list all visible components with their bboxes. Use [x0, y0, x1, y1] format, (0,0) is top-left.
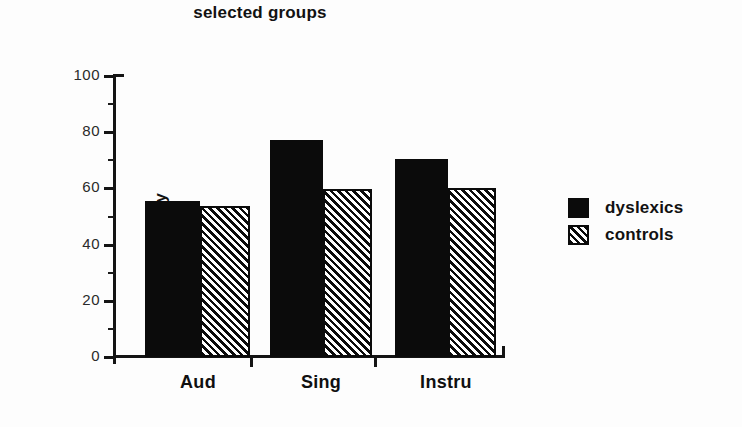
bar-aud-controls — [200, 206, 250, 357]
x-category-label-aud: Aud — [128, 372, 268, 393]
y-tick-label-40: 40 — [40, 235, 100, 252]
y-tick-major-40 — [104, 244, 115, 247]
y-tick-major-60 — [104, 187, 115, 190]
y-tick-minor-30 — [108, 272, 115, 274]
y-tick-label-0: 0 — [40, 347, 100, 364]
y-tick-label-100: 100 — [40, 66, 100, 83]
y-tick-minor-50 — [108, 216, 115, 218]
y-tick-major-80 — [104, 131, 115, 134]
y-tick-major-0 — [104, 356, 115, 359]
legend-row-controls: controls — [568, 221, 738, 248]
legend-swatch-icon-dyslexics — [568, 198, 589, 218]
y-tick-label-60: 60 — [40, 178, 100, 195]
y-tick-minor-90 — [108, 103, 115, 105]
y-tick-minor-70 — [108, 159, 115, 161]
y-tick-label-80: 80 — [40, 122, 100, 139]
y-tick-major-100 — [104, 75, 115, 78]
legend-swatch-icon-controls — [568, 225, 589, 245]
y-tick-label-20: 20 — [40, 291, 100, 308]
bar-instru-dyslexics — [395, 159, 448, 357]
y-tick-major-20 — [104, 300, 115, 303]
chart-legend: dyslexicscontrols — [568, 194, 738, 248]
legend-label-dyslexics: dyslexics — [605, 198, 683, 218]
legend-row-dyslexics: dyslexics — [568, 194, 738, 221]
bar-sing-dyslexics — [270, 140, 323, 357]
bar-chart-figure: selected groups 020406080100 mean % of m… — [0, 0, 742, 427]
x-tick-1 — [374, 357, 377, 367]
bar-sing-controls — [323, 189, 372, 357]
plot-area: mean % of melody — [115, 76, 505, 357]
y-axis-tick-labels: 020406080100 — [38, 0, 100, 427]
bar-instru-controls — [448, 188, 496, 357]
x-tick-0 — [250, 357, 253, 367]
y-tick-minor-10 — [108, 328, 115, 330]
legend-label-controls: controls — [605, 225, 674, 245]
x-category-label-instru: Instru — [376, 372, 516, 393]
bar-aud-dyslexics — [145, 201, 200, 357]
x-category-label-sing: Sing — [251, 372, 391, 393]
